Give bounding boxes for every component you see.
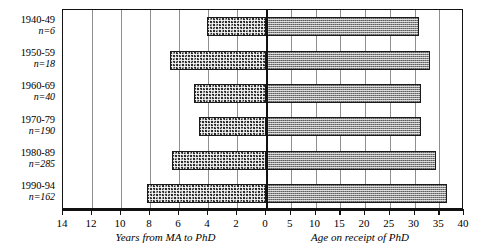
category-period: 1940-49 [21,15,55,26]
gridline-years-8 [150,10,151,208]
zero-divider-line [266,10,268,208]
category-sample-size: n=190 [21,126,55,136]
axis-tick-label-years-14: 14 [57,217,68,229]
gridline-age-30 [415,10,416,208]
bar-age-at-phd [266,184,447,203]
category-period: 1970-79 [21,115,55,126]
category-label: 1970-79n=190 [21,115,55,136]
axis-tick-label-age-35: 35 [433,217,444,229]
bar-age-at-phd [266,117,421,136]
category-label: 1950-59n=18 [21,48,55,69]
axis-tick-years-12 [91,209,92,215]
axis-tick-age-10 [315,209,316,215]
bar-years-to-phd [172,151,266,170]
bidirectional-bar-chart: 1940-49n=61950-59n=181960-69n=401970-79n… [0,0,487,249]
axis-tick-label-age-10: 10 [309,217,320,229]
axis-tick-label-age-25: 25 [383,217,394,229]
axis-tick-age-30 [414,209,415,215]
x-axis-line [62,209,463,211]
axis-tick-years-10 [120,209,121,215]
category-sample-size: n=162 [21,192,55,202]
gridline-age-35 [439,10,440,208]
axis-tick-years-4 [207,209,208,215]
axis-tick-label-years-0: 0 [262,217,268,229]
category-label: 1960-69n=40 [21,81,55,102]
axis-tick-age-5 [290,209,291,215]
gridline-years-10 [121,10,122,208]
bar-age-at-phd [266,151,436,170]
bar-years-to-phd [194,84,267,103]
axis-tick-years-6 [178,209,179,215]
axis-tick-years-14 [62,209,63,215]
gridline-age-10 [316,10,317,208]
bar-age-at-phd [266,51,430,70]
bar-age-at-phd [266,84,421,103]
gridline-years-12 [92,10,93,208]
gridline-age-20 [365,10,366,208]
axis-tick-years-2 [236,209,237,215]
axis-tick-age-20 [364,209,365,215]
axis-tick-age-15 [339,209,340,215]
gridline-age-25 [390,10,391,208]
category-label: 1990-94n=162 [21,181,55,202]
category-sample-size: n=18 [21,59,55,69]
category-label: 1940-49n=6 [21,15,55,36]
gridline-years-6 [179,10,180,208]
axis-tick-label-years-6: 6 [175,217,181,229]
axis-tick-label-age-5: 5 [287,217,293,229]
axis-tick-age-40 [463,209,464,215]
axis-tick-years-0 [265,209,266,215]
axis-tick-label-years-10: 10 [115,217,126,229]
axis-tick-label-years-2: 2 [233,217,239,229]
category-sample-size: n=285 [21,159,55,169]
plot-area [62,9,463,209]
bar-years-to-phd [147,184,266,203]
axis-tick-age-25 [389,209,390,215]
category-sample-size: n=40 [21,92,55,102]
axis-tick-label-years-8: 8 [146,217,152,229]
category-sample-size: n=6 [21,26,55,36]
axis-tick-age-35 [438,209,439,215]
axis-tick-label-age-20: 20 [359,217,370,229]
axis-tick-label-years-12: 12 [86,217,97,229]
axis-tick-label-age-30: 30 [408,217,419,229]
bar-years-to-phd [170,51,266,70]
gridline-years-2 [237,10,238,208]
x-axis-title-right: Age on receipt of PhD [311,231,409,243]
axis-tick-label-years-4: 4 [204,217,210,229]
axis-tick-years-8 [149,209,150,215]
x-axis-title-left: Years from MA to PhD [116,231,216,243]
category-label: 1980-89n=285 [21,148,55,169]
axis-tick-label-age-40: 40 [458,217,469,229]
bar-years-to-phd [199,117,266,136]
bar-age-at-phd [266,17,419,36]
axis-tick-label-age-15: 15 [334,217,345,229]
gridline-years-4 [208,10,209,208]
gridline-age-15 [340,10,341,208]
category-label-column: 1940-49n=61950-59n=181960-69n=401970-79n… [0,9,58,209]
gridline-age-5 [291,10,292,208]
bar-years-to-phd [207,17,266,36]
